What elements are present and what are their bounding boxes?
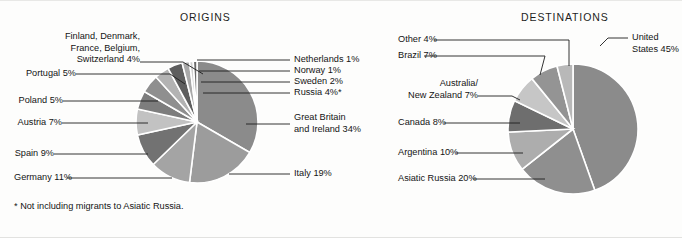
destinations-label-brazil: Brazil 7% [398,50,424,62]
origins-label-germany: Germany 11% [14,172,67,184]
footnote-text: * Not including migrants to Asiatic Russ… [14,201,184,211]
origins-label-spain: Spain 9% [14,148,54,160]
origins-label-great-britain-line2: and Ireland 34% [294,124,361,136]
destinations-label-united-states-line2: States 45% [632,44,679,56]
origins-label-nordics-west-line1: Finland, Denmark, [14,31,140,43]
origins-label-poland: Poland 5% [14,95,63,107]
destinations-label-asiatic-russia: Asiatic Russia 20% [398,173,473,185]
destinations-label-united-states: United States 45% [632,32,679,55]
origins-label-great-britain: Great Britain and Ireland 34% [294,112,361,135]
destinations-label-other: Other 4% [398,34,434,46]
leader-line-other [434,40,569,66]
origins-label-russia: Russia 4%* [294,87,342,99]
destinations-label-australia-nz-line1: Australia/ [398,78,478,90]
pie-chart-figure: ORIGINS DESTINATIONS [0,0,682,238]
leader-line-australia-nz [478,96,520,100]
destinations-pie-slices [508,64,638,194]
leader-line-brazil [424,56,545,75]
origins-pie-slices [136,61,258,183]
origins-label-portugal: Portugal 5% [14,68,76,80]
origins-label-italy: Italy 19% [294,168,332,180]
origins-label-sweden: Sweden 2% [294,76,343,88]
origins-label-nordics-west: Finland, Denmark, France, Belgium, Switz… [14,31,140,66]
origins-label-netherlands: Netherlands 1% [294,54,359,66]
destinations-label-united-states-line1: United [632,32,679,44]
origins-label-nordics-west-line2: France, Belgium, [14,43,140,55]
destinations-label-australia-nz: Australia/ New Zealand 7% [398,78,478,101]
destinations-label-canada: Canada 8% [398,117,444,129]
origins-label-norway: Norway 1% [294,65,341,77]
origins-label-great-britain-line1: Great Britain [294,112,361,124]
leader-line-united-states [600,38,628,46]
destinations-label-australia-nz-line2: New Zealand 7% [398,90,478,102]
origins-label-nordics-west-line3: Switzerland 4% [14,54,140,66]
destinations-label-argentina: Argentina 10% [398,147,456,159]
origins-label-austria: Austria 7% [14,117,62,129]
